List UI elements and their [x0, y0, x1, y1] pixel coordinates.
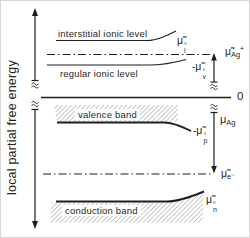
mu-sub: n — [213, 207, 217, 213]
regular-level-label: regular ionic level — [60, 68, 138, 79]
mu-ag-ion-symbol: μ̃Ag+ — [225, 44, 244, 59]
mu-e-symbol: μ̃e⁻ — [221, 167, 235, 181]
mu-ag-symbol: μAg — [220, 113, 236, 127]
axis-break-mark — [211, 104, 218, 106]
arrowhead-down — [211, 166, 217, 174]
silver-potential-arrow — [211, 104, 218, 173]
mu-sub: i — [184, 48, 186, 54]
mu-base: μ̃ — [206, 193, 212, 205]
mu-base: μ̃ — [195, 60, 201, 72]
mu-sub: Ag — [231, 50, 240, 59]
valence-band-edge-line — [57, 123, 191, 132]
axis-break-mark — [211, 107, 218, 109]
y-axis-label: local partial free energy — [0, 37, 24, 219]
axis-break-mark — [32, 101, 39, 103]
mu-p-symbol: -μ̃°p — [193, 124, 207, 144]
mu-sup: + — [240, 44, 244, 53]
mu-n-symbol: μ̃°n — [206, 193, 217, 213]
axis-break-mark — [211, 84, 218, 86]
axis-break-mark — [32, 104, 39, 106]
axis-break-mark — [211, 87, 218, 89]
energy-level-diagram: local partial free energy interstitial i… — [0, 0, 250, 238]
mu-base: μ̃ — [196, 124, 202, 136]
y-axis-arrowhead-down — [32, 221, 38, 229]
conduction-band-edge-line — [56, 192, 204, 202]
mu-sub: p — [203, 138, 207, 144]
zero-label: 0 — [237, 90, 243, 102]
regular-level-line — [47, 60, 186, 66]
conduction-band-label: conduction band — [62, 205, 141, 216]
y-axis-arrow — [32, 8, 39, 229]
valence-band-label: valence band — [75, 109, 140, 120]
mu-base: μ̃ — [177, 34, 183, 46]
mu-sub: Ag — [226, 118, 235, 127]
mu-v-symbol: -μ̃°v — [192, 60, 206, 80]
mu-i-symbol: μ̃°i — [177, 34, 187, 54]
silver-ion-potential-arrow — [211, 53, 218, 90]
axis-break-mark — [32, 83, 39, 85]
mu-sub: v — [202, 74, 206, 80]
interstitial-level-label: interstitial ionic level — [58, 28, 147, 39]
mu-sub: e⁻ — [227, 172, 235, 181]
axis-break-mark — [32, 86, 39, 88]
